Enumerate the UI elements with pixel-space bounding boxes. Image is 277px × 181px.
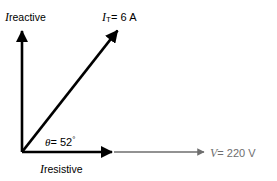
phasor-diagram: Ireactive IT= 6 A Iresistive θ= 52° V= 2…	[0, 0, 277, 181]
label-voltage: V= 220 V	[210, 144, 256, 160]
label-voltage-value: = 220 V	[217, 147, 255, 159]
label-angle-theta: θ= 52°	[45, 133, 75, 149]
label-i-total: IT= 6 A	[102, 8, 136, 24]
degree-icon: °	[72, 135, 75, 144]
label-i-resistive: Iresistive	[40, 160, 83, 176]
label-theta-value: = 52	[50, 136, 72, 148]
label-i-total-value: = 6 A	[111, 11, 136, 23]
label-i-reactive: Ireactive	[5, 8, 46, 24]
label-i-reactive-word: reactive	[9, 11, 46, 23]
label-i-resistive-word: resistive	[44, 163, 83, 175]
